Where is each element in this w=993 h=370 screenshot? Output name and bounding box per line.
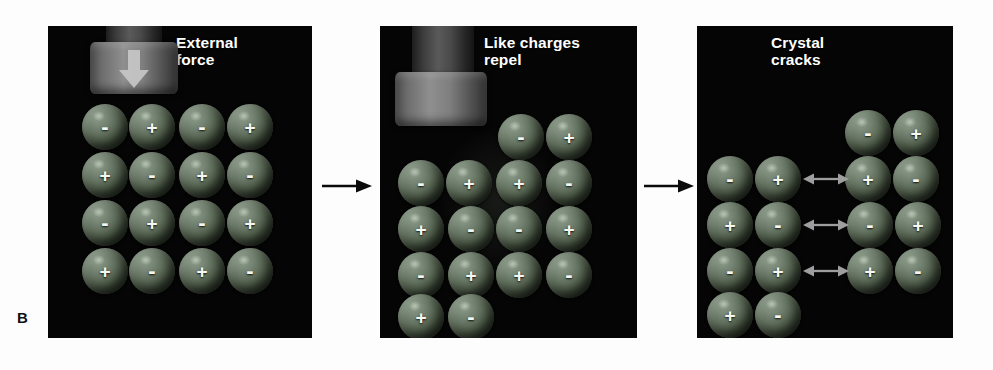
ion-charge-sign: + (845, 170, 891, 189)
ion-charge-sign: - (179, 116, 225, 138)
ion-charge-sign: + (707, 306, 753, 325)
ion-sphere: - (893, 156, 939, 202)
ion-charge-sign: - (755, 304, 801, 326)
ion-sphere: + (895, 202, 941, 248)
ion-charge-sign: + (82, 166, 128, 185)
ion-charge-sign: + (227, 214, 273, 233)
ion-sphere: - (129, 152, 175, 198)
ion-sphere: + (398, 294, 444, 338)
ion-charge-sign: - (448, 218, 494, 240)
ion-charge-sign: - (893, 168, 939, 190)
figure-container: B External force - + - + + - + - - + - +… (0, 0, 993, 370)
ion-charge-sign: + (398, 308, 444, 327)
ion-sphere: - (498, 114, 544, 160)
ion-charge-sign: - (707, 260, 753, 282)
ion-charge-sign: + (129, 214, 175, 233)
ion-sphere: - (82, 200, 128, 246)
step-arrow-2 (644, 176, 694, 196)
ion-sphere: - (546, 252, 592, 298)
step-arrow-1 (322, 176, 372, 196)
ion-sphere: + (129, 200, 175, 246)
repulsion-arrow (803, 215, 849, 235)
panel-like-charges-repel: Like charges repel - + - + + - + - - + -… (380, 26, 637, 338)
ion-sphere: - (227, 248, 273, 294)
ion-charge-sign: + (82, 262, 128, 281)
repulsion-arrow (803, 169, 849, 189)
ion-sphere: - (707, 156, 753, 202)
ion-charge-sign: + (895, 216, 941, 235)
ion-charge-sign: + (847, 262, 893, 281)
ion-sphere: - (227, 152, 273, 198)
ion-sphere: - (755, 292, 801, 338)
panel-crystal-cracks: Crystal cracks - + - + + - + - - + - + (697, 26, 953, 338)
ion-charge-sign: - (546, 264, 592, 286)
ion-sphere: + (179, 248, 225, 294)
ion-sphere: + (82, 152, 128, 198)
ion-charge-sign: - (448, 306, 494, 328)
ion-sphere: - (448, 206, 494, 252)
panel-title-like-charges-repel: Like charges repel (484, 34, 580, 69)
panel-external-force: External force - + - + + - + - - + - + +… (48, 26, 312, 338)
ion-charge-sign: - (179, 212, 225, 234)
ion-sphere: - (847, 202, 893, 248)
ion-sphere: - (129, 248, 175, 294)
ion-sphere: - (179, 104, 225, 150)
ion-sphere: + (82, 248, 128, 294)
ion-charge-sign: + (448, 266, 494, 285)
ion-charge-sign: + (755, 170, 801, 189)
ion-sphere: + (398, 206, 444, 252)
ion-sphere: + (546, 114, 592, 160)
ion-charge-sign: - (129, 260, 175, 282)
ion-sphere: - (707, 248, 753, 294)
panel-title-external-force: External force (176, 34, 238, 69)
panel-title-crystal-cracks: Crystal cracks (771, 34, 824, 69)
ion-charge-sign: - (546, 172, 592, 194)
ion-charge-sign: + (179, 262, 225, 281)
ion-sphere: - (448, 294, 494, 338)
ion-charge-sign: - (82, 212, 128, 234)
ion-sphere: + (448, 252, 494, 298)
ion-charge-sign: + (398, 220, 444, 239)
ion-sphere: + (755, 156, 801, 202)
ion-sphere: + (755, 248, 801, 294)
ion-charge-sign: + (129, 118, 175, 137)
ion-charge-sign: + (496, 174, 542, 193)
ion-charge-sign: - (755, 214, 801, 236)
ion-charge-sign: - (82, 116, 128, 138)
ion-sphere: - (82, 104, 128, 150)
piston-head (395, 72, 487, 126)
ion-charge-sign: + (446, 174, 492, 193)
ion-sphere: + (227, 104, 273, 150)
ion-sphere: + (227, 200, 273, 246)
ion-sphere: + (707, 202, 753, 248)
piston-shaft (412, 26, 474, 74)
ion-sphere: + (845, 156, 891, 202)
ion-sphere: + (893, 110, 939, 156)
ion-charge-sign: - (845, 122, 891, 144)
ion-sphere: + (546, 206, 592, 252)
ion-charge-sign: - (707, 168, 753, 190)
ion-charge-sign: + (546, 220, 592, 239)
ion-sphere: + (707, 292, 753, 338)
ion-charge-sign: - (498, 126, 544, 148)
ion-sphere: - (755, 202, 801, 248)
ion-charge-sign: - (847, 214, 893, 236)
ion-charge-sign: - (398, 172, 444, 194)
ion-charge-sign: + (179, 166, 225, 185)
ion-sphere: - (398, 160, 444, 206)
repulsion-arrow (803, 261, 849, 281)
ion-sphere: + (847, 248, 893, 294)
ion-charge-sign: - (227, 164, 273, 186)
ion-charge-sign: - (398, 264, 444, 286)
ion-charge-sign: + (496, 266, 542, 285)
ion-sphere: - (895, 248, 941, 294)
ion-sphere: - (845, 110, 891, 156)
ion-charge-sign: + (227, 118, 273, 137)
ion-sphere: - (546, 160, 592, 206)
ion-sphere: - (398, 252, 444, 298)
ion-sphere: + (446, 160, 492, 206)
ion-charge-sign: - (895, 260, 941, 282)
ion-charge-sign: - (496, 218, 542, 240)
ion-sphere: + (496, 252, 542, 298)
ion-sphere: - (179, 200, 225, 246)
